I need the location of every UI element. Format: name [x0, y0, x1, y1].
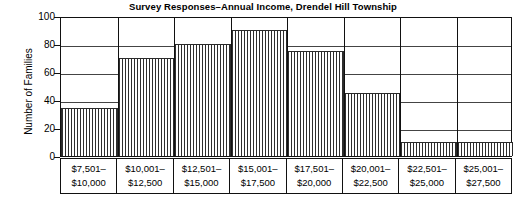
y-tick-mark [54, 157, 60, 158]
x-tick-label: $17,501–$20,000 [287, 159, 343, 193]
x-tick-label: $25,001–$27,500 [456, 159, 511, 193]
x-axis-label-row: $7,501–$10,000$10,001–$12,500$12,501–$15… [60, 158, 512, 194]
y-tick-label: 40 [29, 96, 55, 106]
y-tick-mark [54, 101, 60, 102]
x-tick-label-lower: $17,501– [294, 162, 334, 176]
y-tick-mark [54, 129, 60, 130]
x-tick-label-lower: $12,501– [182, 162, 222, 176]
histogram-bar [400, 142, 457, 156]
bin-separator [344, 18, 345, 156]
bin-separator [231, 18, 232, 156]
y-tick-mark [54, 45, 60, 46]
x-tick-label-upper: $22,500 [353, 176, 387, 190]
y-tick-label: 80 [29, 40, 55, 50]
x-tick-label-upper: $25,000 [410, 176, 444, 190]
x-tick-label-upper: $10,000 [72, 176, 106, 190]
histogram-bar [174, 44, 231, 156]
x-tick-label: $22,501–$25,000 [399, 159, 455, 193]
histogram-bar [231, 30, 288, 156]
bin-separator [174, 18, 175, 156]
y-tick-mark [54, 73, 60, 74]
x-tick-label-lower: $7,501– [72, 162, 106, 176]
y-tick-label: 20 [29, 124, 55, 134]
x-tick-label: $10,001–$12,500 [117, 159, 173, 193]
bin-separator [118, 18, 119, 156]
bin-separator [457, 18, 458, 156]
x-tick-label-lower: $10,001– [125, 162, 165, 176]
x-tick-label-lower: $20,001– [351, 162, 391, 176]
x-tick-label-lower: $15,001– [238, 162, 278, 176]
plot-inner [61, 18, 511, 156]
y-tick-mark [54, 17, 60, 18]
x-tick-label: $20,001–$22,500 [343, 159, 399, 193]
bin-separator [400, 18, 401, 156]
histogram-bar [118, 58, 175, 156]
x-tick-label-lower: $25,001– [464, 162, 504, 176]
x-tick-label: $7,501–$10,000 [61, 159, 117, 193]
x-tick-label-upper: $12,500 [128, 176, 162, 190]
bin-separator [287, 18, 288, 156]
histogram-bar [344, 93, 401, 156]
y-tick-label: 100 [29, 12, 55, 22]
y-axis-tick-labels: 100806040200 [28, 0, 55, 203]
x-tick-label-lower: $22,501– [407, 162, 447, 176]
x-tick-label-upper: $17,500 [241, 176, 275, 190]
page-title: Survey Responses–Annual Income, Drendel … [0, 1, 526, 12]
histogram-bar [457, 142, 514, 156]
y-tick-label: 0 [29, 152, 55, 162]
histogram-figure: Survey Responses–Annual Income, Drendel … [0, 0, 526, 203]
x-tick-label: $12,501–$15,000 [174, 159, 230, 193]
histogram-bar [61, 108, 118, 156]
x-tick-label: $15,001–$17,500 [230, 159, 286, 193]
x-tick-label-upper: $15,000 [184, 176, 218, 190]
plot-area [60, 17, 512, 157]
histogram-bar [287, 51, 344, 156]
x-tick-label-upper: $27,500 [466, 176, 500, 190]
x-tick-label-upper: $20,000 [297, 176, 331, 190]
y-tick-label: 60 [29, 68, 55, 78]
